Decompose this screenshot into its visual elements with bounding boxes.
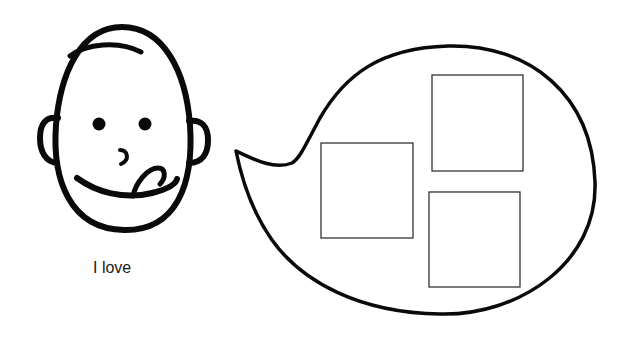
caption-label: I love [93,258,131,278]
illustration-canvas [0,0,628,338]
left-eye-icon [93,118,106,131]
face-icon [40,27,208,230]
speech-bubble-icon [236,46,595,314]
head-outline-icon [55,27,190,230]
picture-box-bottom-right[interactable] [429,192,520,287]
eyes [93,118,152,131]
picture-box-top-right[interactable] [432,75,523,171]
right-eye-icon [139,118,152,131]
nose-icon [120,150,127,164]
picture-box-left[interactable] [321,143,413,238]
